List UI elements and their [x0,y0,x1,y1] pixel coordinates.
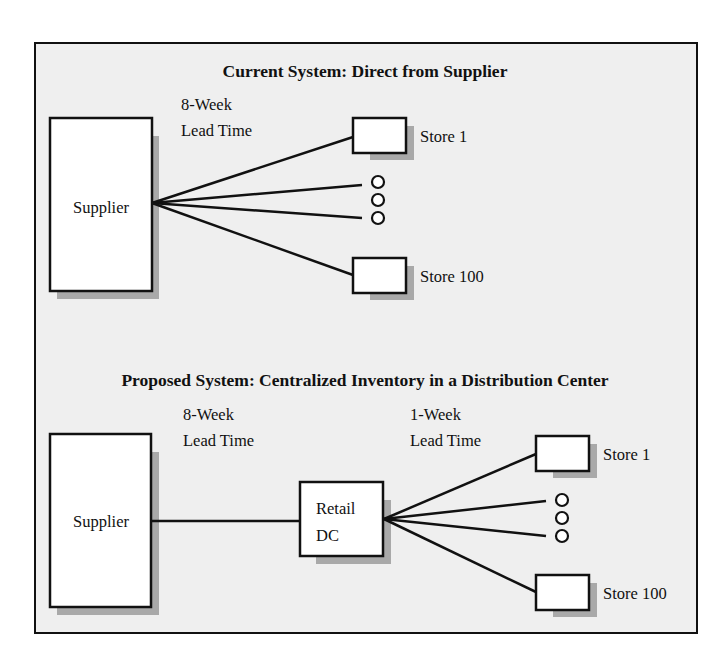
dc-lead-time-line1: 1-Week [410,405,462,424]
ellipsis-circle-icon [372,176,384,188]
dc-label-line1: Retail [316,499,356,518]
proposed-ellipsis-circles [556,494,568,542]
store-box [353,118,406,153]
store-label: Store 1 [420,127,467,146]
proposed-edges [384,454,546,592]
retail-dc-node: Retail DC [300,482,391,564]
edge-to-intermediate-store [384,501,546,519]
store-box [536,436,589,471]
current-system-section: Current System: Direct from Supplier 8-W… [50,61,508,300]
proposed-store-1-node: Store 1 [536,436,650,478]
edge-to-store-1 [152,137,353,203]
edge-to-intermediate-store [384,519,546,536]
edge-to-store-1 [384,454,536,519]
store-box [536,575,589,610]
supply-chain-diagram: Current System: Direct from Supplier 8-W… [0,0,724,669]
ellipsis-circle-icon [556,512,568,524]
store-label: Store 100 [420,267,484,286]
proposed-system-section: Proposed System: Centralized Inventory i… [50,370,667,617]
current-system-title: Current System: Direct from Supplier [223,61,508,81]
edge-to-store-100 [384,519,536,592]
ellipsis-circle-icon [372,194,384,206]
dc-lead-time-line2: Lead Time [410,431,481,450]
store-box [353,258,406,293]
proposed-store-100-node: Store 100 [536,575,667,617]
store-label: Store 100 [603,584,667,603]
supplier-label: Supplier [73,512,129,531]
edge-to-store-100 [152,203,353,275]
supplier-lead-time-line1: 8-Week [183,405,235,424]
supplier-lead-time-line2: Lead Time [183,431,254,450]
current-store-100-node: Store 100 [353,258,484,300]
current-lead-time-line2: Lead Time [181,121,252,140]
edge-to-intermediate-store [152,185,362,203]
proposed-system-title: Proposed System: Centralized Inventory i… [121,370,608,390]
edge-to-intermediate-store [152,203,362,218]
current-store-1-node: Store 1 [353,118,467,160]
dc-box [300,482,383,556]
ellipsis-circle-icon [556,494,568,506]
store-label: Store 1 [603,445,650,464]
proposed-supplier-node: Supplier [50,434,159,615]
current-supplier-node: Supplier [50,118,159,299]
ellipsis-circle-icon [556,530,568,542]
supplier-label: Supplier [73,198,129,217]
current-edges [152,137,362,275]
ellipsis-circle-icon [372,212,384,224]
dc-label-line2: DC [316,526,339,545]
current-ellipsis-circles [372,176,384,224]
current-lead-time-line1: 8-Week [181,95,233,114]
